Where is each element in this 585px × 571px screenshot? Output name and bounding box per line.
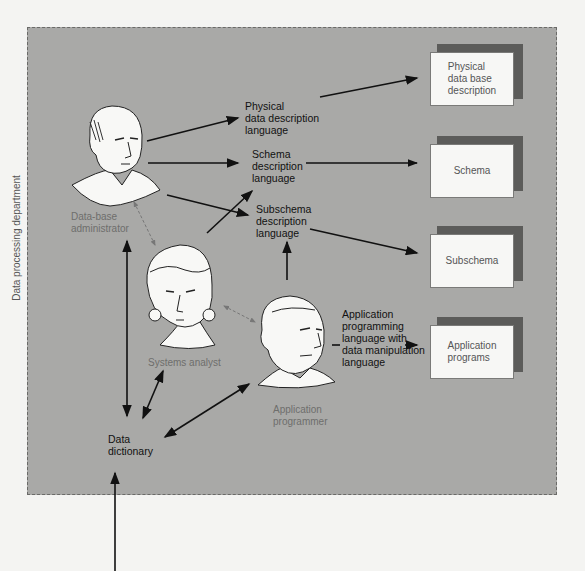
systems-analyst-role-label: Systems analyst [148,357,221,369]
application-programmer-role-label: Application programmer [273,404,327,428]
subschema-description-language-label: Subschema description language [256,203,311,239]
application-programmer-figure-icon [258,296,335,388]
physical-data-description-language-label: Physical data description language [245,100,319,136]
systems-analyst-figure-icon [147,245,215,349]
diagram-graphics [0,0,585,571]
data-dictionary-label: Data dictionary [108,433,153,457]
dba-role-label: Data-base administrator [71,211,129,235]
schema-description-language-label: Schema description language [252,148,303,184]
application-programming-language-label: Application programming language with da… [342,308,425,368]
dba-figure-icon [72,106,160,206]
